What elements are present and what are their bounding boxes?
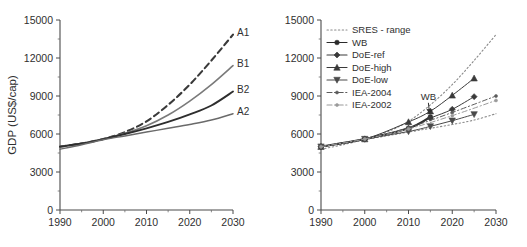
legend-swatch-marker [336,91,339,94]
x-tick-label: 2010 [135,216,159,228]
legend-label: IEA-2002 [352,99,392,110]
legend-label: DoE-low [352,74,388,85]
x-tick-label: 2000 [353,216,377,228]
legend-swatch-marker [335,40,340,45]
series-line-b2 [60,92,233,147]
series-marker-doe-ref [471,94,477,100]
chart-panel-right-projection-comparison: 0300060009000120001500019902000201020202… [263,0,527,247]
curve-end-label-a2: A2 [237,106,250,117]
legend-label: IEA-2004 [352,87,392,98]
y-tick-label: 15000 [24,14,53,26]
x-tick-label: 2020 [178,216,202,228]
legend-label: WB [352,37,367,48]
curve-end-label-b2: B2 [237,84,250,95]
annotation-label-wb: WB [421,91,436,102]
legend-swatch-marker [334,52,340,58]
series-line-b1 [60,66,233,147]
y-tick-label: 3000 [30,166,54,178]
chart-panel-left-sres-scenarios: 0300060009000120001500019902000201020202… [0,0,264,247]
y-tick-label: 9000 [30,90,54,102]
series-marker-iea-2002 [451,114,454,117]
y-tick-label: 15000 [285,14,314,26]
y-tick-label: 12000 [285,52,314,64]
curve-end-label-a1: A1 [237,27,250,38]
x-tick-label: 2010 [397,216,421,228]
y-tick-label: 12000 [24,52,53,64]
series-line-a1 [60,35,233,147]
y-tick-label: 6000 [291,128,315,140]
legend-label: DoE-ref [352,49,385,60]
right-plot-svg: 0300060009000120001500019902000201020202… [263,0,527,247]
y-tick-label: 9000 [291,90,315,102]
x-tick-label: 2020 [441,216,465,228]
left-plot-svg: 0300060009000120001500019902000201020202… [0,0,264,247]
x-tick-label: 1990 [309,216,333,228]
y-axis-title: GDP (US$/cap) [6,75,18,155]
y-tick-label: 0 [308,204,314,216]
series-marker-iea-2004 [451,111,454,114]
curve-end-label-b1: B1 [237,58,250,69]
x-tick-label: 2030 [221,216,245,228]
y-tick-label: 3000 [291,166,315,178]
legend-label: DoE-high [352,62,392,73]
series-marker-iea-2004 [495,95,498,98]
legend-swatch-marker [336,104,339,107]
series-marker-iea-2002 [363,138,366,141]
series-marker-doe-high [471,75,477,81]
series-line-wb [321,117,430,147]
x-tick-label: 2030 [484,216,508,228]
x-tick-label: 1990 [48,216,72,228]
series-marker-iea-2002 [320,145,323,148]
series-line-a2 [60,114,233,149]
series-marker-iea-2002 [495,99,498,102]
figure-two-panel-gdp-projection: 0300060009000120001500019902000201020202… [0,0,527,247]
y-tick-label: 6000 [30,128,54,140]
y-tick-label: 0 [47,204,53,216]
legend-label: SRES - range [352,24,411,35]
x-tick-label: 2000 [92,216,116,228]
series-marker-iea-2002 [407,127,410,130]
